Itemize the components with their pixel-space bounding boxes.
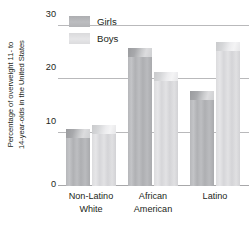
x-label-african-american: African American	[120, 190, 186, 215]
legend-item-boys: Boys	[69, 30, 118, 47]
x-label-line-1: Non-Latino	[58, 190, 124, 203]
x-label-latino: Latino	[182, 190, 248, 203]
bar-chart: Percentage of overweight 11- to 14-year-…	[0, 0, 249, 236]
bar-top-bevel	[190, 91, 214, 100]
x-label-line-1: Latino	[182, 190, 248, 203]
y-tick-10: 10	[30, 117, 56, 126]
legend-label-boys: Boys	[97, 34, 118, 44]
y-axis-title-line-2: 14-year-olds in the United States	[17, 15, 28, 175]
bar-top-bevel	[92, 125, 116, 134]
x-label-non-latino-white: Non-Latino White	[58, 190, 124, 215]
y-tick-0: 0	[30, 180, 56, 189]
legend-label-girls: Girls	[97, 17, 117, 27]
y-tick-30: 30	[30, 10, 56, 19]
bar-boys-non-latino-white	[92, 125, 116, 186]
bar-top-bevel	[216, 42, 240, 51]
bar-body	[216, 42, 240, 186]
legend-item-girls: Girls	[69, 13, 118, 30]
bar-body	[128, 48, 152, 186]
bar-girls-latino	[190, 91, 214, 186]
x-axis-labels: Non-Latino White African American Latino	[58, 190, 249, 230]
bar-body	[92, 125, 116, 186]
bar-boys-latino	[216, 42, 240, 186]
x-label-line-1: African	[120, 190, 186, 203]
bar-girls-non-latino-white	[66, 129, 90, 186]
y-axis-ticks: 30 20 10 0	[28, 14, 56, 186]
bar-boys-african-american	[154, 72, 178, 186]
bar-body	[190, 91, 214, 186]
y-axis-title-line-1: Percentage of overweight 11- to	[6, 15, 17, 175]
legend-swatch-girls	[69, 16, 90, 27]
x-label-line-2: White	[58, 203, 124, 216]
bar-top-bevel	[128, 48, 152, 57]
legend-swatch-boys	[69, 33, 90, 44]
bar-girls-african-american	[128, 48, 152, 186]
y-tick-20: 20	[30, 63, 56, 72]
bar-top-bevel	[154, 72, 178, 81]
bar-body	[154, 72, 178, 186]
x-label-line-2: American	[120, 203, 186, 216]
bar-top-bevel	[66, 129, 90, 138]
legend: Girls Boys	[69, 13, 118, 47]
